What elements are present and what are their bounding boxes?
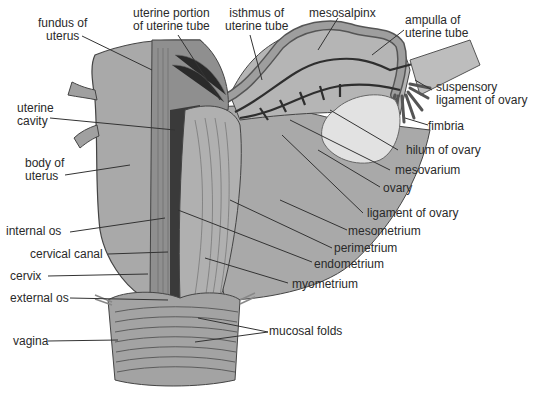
leader-vagina (48, 340, 118, 341)
label-isthmus: isthmus of uterine tube (225, 7, 288, 33)
label-cervix: cervix (10, 270, 41, 283)
label-uterine-cavity: uterine cavity (17, 102, 54, 128)
label-perimetrium: perimetrium (334, 242, 397, 255)
label-external-os: external os (10, 292, 69, 305)
label-mesometrium: mesometrium (348, 225, 421, 238)
left-ligament-stub (74, 125, 99, 148)
label-line: cavity (17, 115, 54, 128)
label-fundus: fundus of uterus (38, 17, 87, 43)
label-line: of uterine tube (133, 20, 210, 33)
label-fimbria: fimbria (428, 120, 464, 133)
leader-fimbria (405, 118, 428, 125)
label-line: uterine tube (225, 20, 288, 33)
label-myometrium: myometrium (292, 278, 358, 291)
label-ligament-ovary: ligament of ovary (367, 207, 458, 220)
label-uterine-portion: uterine portion of uterine tube (133, 7, 210, 33)
anatomy-diagram: fundus of uterus uterine portion of uter… (0, 0, 547, 396)
label-endometrium: endometrium (314, 258, 384, 271)
label-mesosalpinx: mesosalpinx (309, 7, 376, 20)
label-ovary: ovary (383, 182, 412, 195)
label-mucosal-folds: mucosal folds (269, 325, 342, 338)
label-line: ligament of ovary (436, 94, 527, 107)
label-line: uterus (25, 170, 64, 183)
label-mesovarium: mesovarium (395, 164, 460, 177)
label-cervical-canal: cervical canal (30, 248, 103, 261)
label-line: uterus (38, 30, 87, 43)
label-internal-os: internal os (6, 225, 61, 238)
label-body: body of uterus (25, 157, 64, 183)
label-ampulla: ampulla of uterine tube (405, 14, 468, 40)
label-suspensory: suspensory ligament of ovary (436, 81, 527, 107)
label-hilum: hilum of ovary (406, 144, 481, 157)
label-vagina: vagina (13, 335, 48, 348)
label-line: uterine tube (405, 27, 468, 40)
